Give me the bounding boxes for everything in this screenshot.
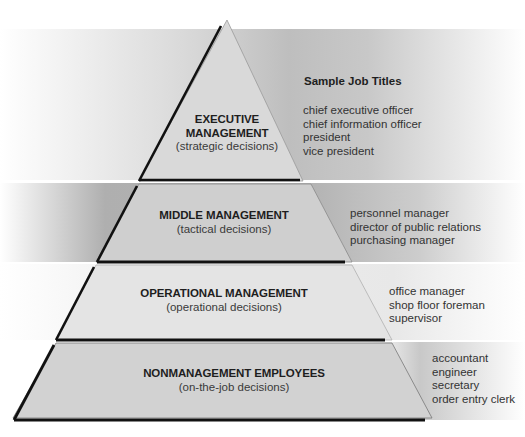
tier-executive-title-line-2: MANAGEMENT (157, 127, 297, 141)
tier-nonmanagement-title: NONMANAGEMENT EMPLOYEES (124, 367, 344, 381)
job-title: order entry clerk (432, 393, 515, 407)
tier-operational-label: OPERATIONAL MANAGEMENT (operational deci… (114, 287, 334, 314)
job-title: vice president (303, 145, 422, 159)
tier-middle-subtitle: (tactical decisions) (134, 223, 314, 237)
tier-nonmanagement-subtitle: (on-the-job decisions) (124, 381, 344, 395)
job-title: shop floor foreman (389, 299, 485, 313)
tier-executive-label: EXECUTIVE MANAGEMENT (strategic decision… (157, 113, 297, 154)
job-title: engineer (432, 366, 515, 380)
job-title: accountant (432, 352, 515, 366)
job-title: director of public relations (350, 221, 481, 235)
job-title: chief information officer (303, 118, 422, 132)
job-title: purchasing manager (350, 234, 481, 248)
sample-job-titles-heading: Sample Job Titles (304, 75, 402, 87)
tier-operational-subtitle: (operational decisions) (114, 301, 334, 315)
job-titles-operational: office manager shop floor foreman superv… (389, 285, 485, 326)
job-titles-middle: personnel manager director of public rel… (350, 207, 481, 248)
job-title: supervisor (389, 312, 485, 326)
tier-middle-title: MIDDLE MANAGEMENT (134, 209, 314, 223)
tier-operational-title: OPERATIONAL MANAGEMENT (114, 287, 334, 301)
job-title: chief executive officer (303, 104, 422, 118)
job-title: president (303, 131, 422, 145)
job-title: secretary (432, 379, 515, 393)
tier-executive-shape (139, 20, 303, 181)
tier-executive-subtitle: (strategic decisions) (157, 140, 297, 154)
tier-nonmanagement-label: NONMANAGEMENT EMPLOYEES (on-the-job deci… (124, 367, 344, 394)
job-titles-executive: chief executive officer chief informatio… (303, 104, 422, 158)
job-title: personnel manager (350, 207, 481, 221)
tier-middle-label: MIDDLE MANAGEMENT (tactical decisions) (134, 209, 314, 236)
job-title: office manager (389, 285, 485, 299)
tier-executive-title-line-1: EXECUTIVE (157, 113, 297, 127)
job-titles-nonmanagement: accountant engineer secretary order entr… (432, 352, 515, 406)
